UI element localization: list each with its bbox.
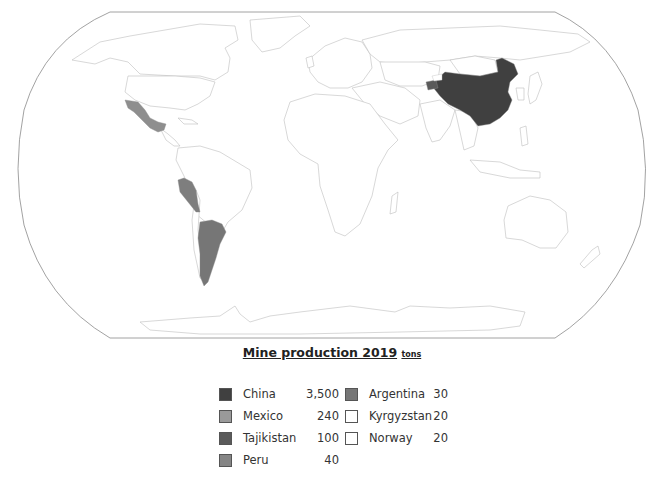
- legend-title: Mine production 2019 tons: [0, 345, 664, 360]
- legend-label: Kyrgyzstan: [369, 408, 432, 424]
- legend-label: China: [243, 386, 276, 402]
- legend-swatch-kyrgyzstan: [345, 410, 358, 423]
- legend-value: 20: [433, 408, 448, 424]
- legend-value: 40: [324, 452, 339, 468]
- legend-swatch-china: [219, 388, 232, 401]
- legend-swatch-tajikistan: [219, 432, 232, 445]
- legend-value: 240: [317, 408, 339, 424]
- legend: China 3,500 Mexico 240 Tajikistan 100 Pe…: [219, 386, 459, 476]
- legend-value: 30: [433, 386, 448, 402]
- legend-item-china: China 3,500: [219, 386, 339, 402]
- legend-value: 3,500: [306, 386, 339, 402]
- legend-label: Argentina: [369, 386, 425, 402]
- legend-item-mexico: Mexico 240: [219, 408, 339, 424]
- legend-swatch-peru: [219, 454, 232, 467]
- legend-item-peru: Peru 40: [219, 452, 339, 468]
- country-tajikistan: [426, 80, 438, 90]
- legend-swatch-norway: [345, 432, 358, 445]
- legend-value: 100: [317, 430, 339, 446]
- legend-item-tajikistan: Tajikistan 100: [219, 430, 339, 446]
- world-map: [0, 0, 664, 345]
- legend-title-unit: tons: [401, 350, 421, 359]
- legend-label: Tajikistan: [243, 430, 296, 446]
- legend-item-norway: Norway 20: [345, 430, 448, 446]
- legend-value: 20: [433, 430, 448, 446]
- legend-label: Peru: [243, 452, 269, 468]
- legend-item-argentina: Argentina 30: [345, 386, 448, 402]
- legend-swatch-mexico: [219, 410, 232, 423]
- legend-label: Norway: [369, 430, 413, 446]
- legend-item-kyrgyzstan: Kyrgyzstan 20: [345, 408, 448, 424]
- legend-label: Mexico: [243, 408, 283, 424]
- legend-swatch-argentina: [345, 388, 358, 401]
- legend-title-main: Mine production 2019: [243, 345, 397, 360]
